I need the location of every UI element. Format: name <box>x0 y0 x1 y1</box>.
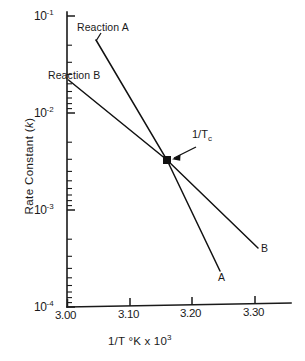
reaction-a-leader-line <box>96 33 101 41</box>
y-tick-label-3: 10-3 <box>34 203 54 216</box>
x-tick-label-2: 3.10 <box>118 309 139 321</box>
intersection-marker <box>164 157 171 164</box>
endpoint-label-b: B <box>261 243 268 254</box>
y-axis-title: Rate Constant (k) <box>23 81 35 251</box>
series-label-reaction-a: Reaction A <box>77 22 129 33</box>
y-tick-label-2: 10-2 <box>34 106 54 119</box>
arrhenius-plot-figure: 10-1 10-2 10-3 10-4 3.00 3.10 3.20 3.30 … <box>0 0 305 361</box>
x-tick-label-3: 3.20 <box>180 308 201 320</box>
annotation-critical-temperature: 1/Tc <box>192 129 212 143</box>
series-label-reaction-b: Reaction B <box>48 70 100 81</box>
y-tick-label-4: 10-4 <box>34 300 54 313</box>
y-axis-major-ticks <box>67 16 75 307</box>
x-tick-label-1: 3.00 <box>55 310 76 322</box>
y-tick-label-1: 10-1 <box>34 9 54 22</box>
annotation-arrow <box>172 147 196 161</box>
series-line-reaction-a <box>96 40 220 271</box>
x-tick-label-4: 3.30 <box>243 307 264 319</box>
x-axis-title: 1/T °K x 103 <box>108 334 172 347</box>
endpoint-label-a: A <box>218 272 225 283</box>
